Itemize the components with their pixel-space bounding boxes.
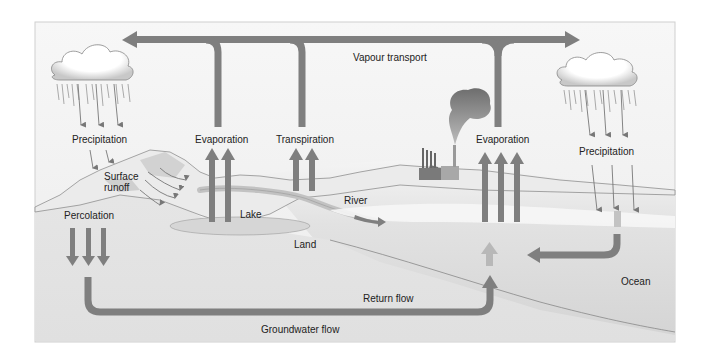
label-surface-runoff-1: Surface <box>104 171 138 182</box>
label-transpiration: Transpiration <box>276 134 334 145</box>
label-lake: Lake <box>240 209 262 220</box>
percolation-arrows <box>66 228 110 266</box>
label-groundwater-flow: Groundwater flow <box>261 324 339 335</box>
label-ocean: Ocean <box>621 276 650 287</box>
label-evaporation-left: Evaporation <box>195 134 248 145</box>
label-vapour-transport: Vapour transport <box>353 52 427 63</box>
label-return-flow: Return flow <box>363 293 414 304</box>
label-percolation: Percolation <box>64 210 114 221</box>
label-evaporation-right: Evaporation <box>476 134 529 145</box>
label-surface-runoff-2: runoff <box>104 182 129 193</box>
label-precipitation-right: Precipitation <box>579 146 634 157</box>
label-land: Land <box>294 239 316 250</box>
ocean-drop-marker <box>614 211 621 227</box>
label-precipitation-left: Precipitation <box>72 134 127 145</box>
label-river: River <box>344 195 367 206</box>
evaporation-right-arrows <box>478 152 524 222</box>
